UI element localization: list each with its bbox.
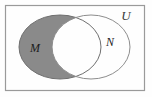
set-label-m: M bbox=[29, 41, 41, 55]
set-label-n: N bbox=[105, 35, 115, 49]
universe-label-u: U bbox=[121, 8, 132, 23]
venn-diagram-figure: M N U bbox=[0, 0, 152, 97]
venn-diagram-canvas: M N U bbox=[0, 0, 152, 97]
